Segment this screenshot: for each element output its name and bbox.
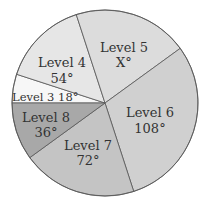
slice-label-level-5: Level 5: [100, 40, 148, 55]
pie-chart: Level 3 18° Level 4 54° Level 5 X° Level…: [0, 0, 208, 207]
slice-label-level-6: Level 6: [126, 105, 174, 120]
slice-value-level-8: 36°: [34, 125, 57, 140]
slice-value-level-7: 72°: [76, 153, 99, 168]
slice-label-level-7: Level 7: [64, 138, 112, 153]
slice-label-level-3: Level 3 18°: [12, 90, 78, 104]
slice-value-level-6: 108°: [134, 121, 165, 136]
slice-label-level-4: Level 4: [38, 55, 86, 70]
slice-value-level-5: X°: [116, 55, 132, 70]
slice-label-level-8: Level 8: [22, 110, 70, 125]
slice-value-level-4: 54°: [50, 71, 73, 86]
